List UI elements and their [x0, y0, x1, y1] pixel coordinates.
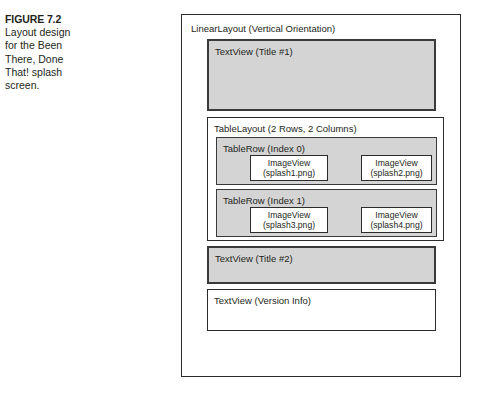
figure-caption-text: Layout design for the Been There, Done T…	[5, 26, 83, 92]
textview-title-2: TextView (Title #2)	[207, 246, 436, 284]
imageview-splash1-type: ImageView	[268, 158, 310, 168]
imageview-splash4-type: ImageView	[375, 210, 417, 220]
imageview-splash2: ImageView (splash2.png)	[361, 155, 432, 181]
tablelayout-label: TableLayout (2 Rows, 2 Columns)	[214, 123, 357, 134]
tablerow-index-1-label: TableRow (Index 1)	[223, 195, 305, 206]
tablelayout-container: TableLayout (2 Rows, 2 Columns) TableRow…	[207, 117, 444, 241]
imageview-splash3: ImageView (splash3.png)	[250, 207, 328, 233]
textview-title-1-label: TextView (Title #1)	[215, 46, 293, 57]
imageview-splash1-source: (splash1.png)	[263, 168, 315, 178]
linearlayout-label: LinearLayout (Vertical Orientation)	[191, 23, 335, 34]
textview-title-2-label: TextView (Title #2)	[215, 253, 293, 264]
textview-version-info: TextView (Version Info)	[207, 289, 436, 331]
imageview-splash2-type: ImageView	[375, 158, 417, 168]
textview-version-info-label: TextView (Version Info)	[214, 295, 311, 306]
tablerow-index-0-label: TableRow (Index 0)	[223, 143, 305, 154]
imageview-splash3-type: ImageView	[268, 210, 310, 220]
imageview-splash2-source: (splash2.png)	[370, 168, 422, 178]
tablerow-index-1: TableRow (Index 1) ImageView (splash3.pn…	[216, 189, 437, 237]
imageview-splash1: ImageView (splash1.png)	[250, 155, 328, 181]
textview-title-1: TextView (Title #1)	[207, 39, 436, 111]
figure-number: FIGURE 7.2	[5, 13, 83, 26]
tablerow-index-0: TableRow (Index 0) ImageView (splash1.pn…	[216, 137, 437, 185]
imageview-splash3-source: (splash3.png)	[263, 220, 315, 230]
imageview-splash4-source: (splash4.png)	[370, 220, 422, 230]
imageview-splash4: ImageView (splash4.png)	[361, 207, 432, 233]
layout-diagram-root: LinearLayout (Vertical Orientation) Text…	[181, 14, 461, 377]
figure-caption: FIGURE 7.2 Layout design for the Been Th…	[5, 13, 83, 92]
